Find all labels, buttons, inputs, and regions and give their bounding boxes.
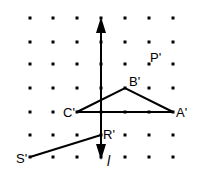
label-line-l: l [107,153,111,169]
grid-dot [76,87,79,90]
grid-dot [52,41,55,44]
arrow-up-icon [96,17,106,33]
grid-dot [29,41,32,44]
grid-dot [172,41,175,44]
grid-dot [172,63,175,66]
grid-dot [76,134,79,137]
label-s-prime: S' [16,151,27,166]
grid-dot [148,134,151,137]
label-r-prime: R' [103,127,115,142]
segment-rs-prime [30,135,101,157]
grid-dot [124,156,127,159]
grid-dot [29,87,32,90]
grid-dot [148,87,151,90]
grid-dot [172,134,175,137]
grid-dot [76,63,79,66]
triangle-abc-prime [77,88,173,112]
grid-dot [124,41,127,44]
grid-dot [76,17,79,20]
grid-dot [124,63,127,66]
label-p-prime: P' [150,50,161,65]
grid-dot [124,134,127,137]
grid-dot [52,87,55,90]
grid-dot [52,63,55,66]
grid-dot [52,111,55,114]
grid-dot [29,134,32,137]
grid-dot [172,17,175,20]
grid-dot [124,17,127,20]
grid-dot [76,41,79,44]
reflection-diagram: P' B' C' A' R' S' l [0,0,199,177]
grid-dot [29,63,32,66]
grid-dot [52,134,55,137]
grid-dot [148,156,151,159]
grid-dot [148,41,151,44]
arrow-down-icon [96,144,106,160]
grid-dot [52,17,55,20]
grid-dot [29,111,32,114]
grid-dot [172,87,175,90]
label-b-prime: B' [129,74,140,89]
label-a-prime: A' [176,105,187,120]
grid-dot [148,17,151,20]
grid-dot [52,156,55,159]
diagram-canvas: P' B' C' A' R' S' l [0,0,199,177]
label-c-prime: C' [63,105,75,120]
grid-dot [29,17,32,20]
grid-dot [76,156,79,159]
grid-dot [172,156,175,159]
